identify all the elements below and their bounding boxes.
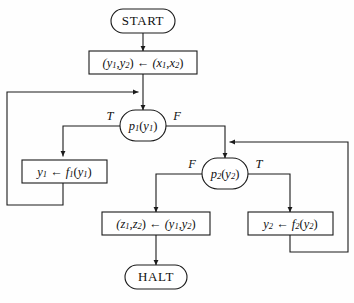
edge-p2-false-to-output	[156, 174, 202, 212]
node-p2-label: p2(y2)	[210, 166, 240, 180]
node-halt[interactable]: HALT	[125, 265, 187, 289]
node-output[interactable]: (z1,z2) ← (y1,y2)	[102, 212, 210, 235]
edge-p1-true-to-update1	[63, 126, 120, 156]
edge-update1-loopback	[7, 92, 138, 205]
branch-label-p1-false: F	[172, 109, 181, 123]
node-p1-label: p1(y1)	[128, 118, 158, 132]
flowchart-canvas: START (y1,y2) ← (x1,x2) p1(y1) y1 ← f1(y…	[0, 0, 354, 303]
branch-label-p2-false: F	[187, 157, 196, 171]
node-init[interactable]: (y1,y2) ← (x1,x2)	[89, 51, 197, 74]
node-start-label: START	[122, 13, 164, 28]
node-halt-label: HALT	[138, 269, 174, 284]
branch-label-p2-true: T	[256, 157, 264, 171]
node-p1[interactable]: p1(y1)	[120, 110, 166, 141]
node-start[interactable]: START	[111, 9, 175, 33]
edge-p1-false-to-p2	[166, 126, 225, 158]
edge-p2-true-to-update2	[248, 174, 290, 212]
node-update2[interactable]: y2 ← f2(y2)	[248, 212, 333, 235]
node-update1[interactable]: y1 ← f1(y1)	[22, 160, 107, 183]
node-p2[interactable]: p2(y2)	[202, 158, 248, 189]
flowchart-svg: START (y1,y2) ← (x1,x2) p1(y1) y1 ← f1(y…	[0, 0, 354, 303]
branch-label-p1-true: T	[107, 109, 115, 123]
